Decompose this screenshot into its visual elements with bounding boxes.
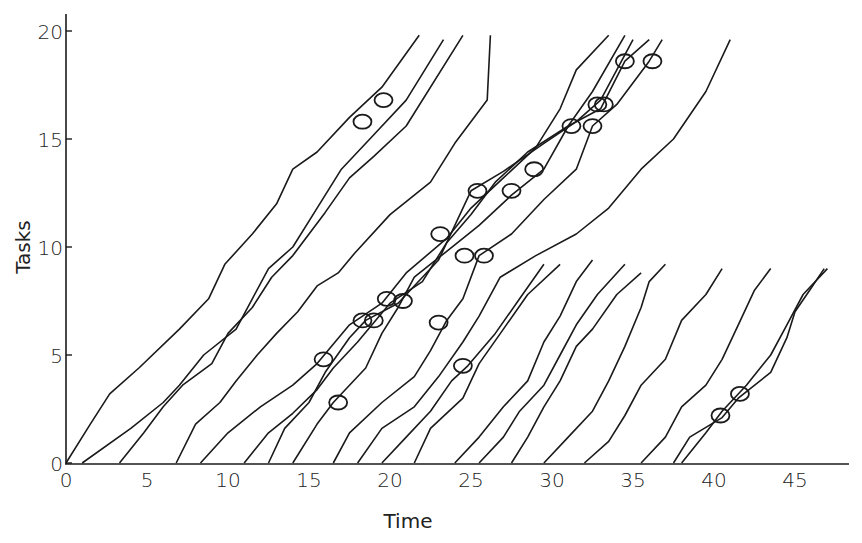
circle-marker bbox=[315, 352, 333, 366]
circle-marker bbox=[731, 387, 749, 401]
trace-1 bbox=[66, 35, 419, 463]
trace-lines bbox=[66, 35, 827, 463]
x-tick-label: 15 bbox=[296, 468, 321, 492]
y-tick-label: 10 bbox=[38, 236, 63, 260]
axes: 05101520 051015202530354045 Tasks Time bbox=[11, 14, 849, 533]
trace-15 bbox=[512, 273, 642, 463]
circle-marker bbox=[475, 249, 493, 263]
circle-marker bbox=[456, 249, 474, 263]
circle-marker bbox=[375, 93, 393, 107]
y-axis-title: Tasks bbox=[11, 220, 35, 275]
trace-17 bbox=[584, 269, 722, 463]
x-tick-label: 40 bbox=[701, 468, 726, 492]
x-tick-label: 25 bbox=[458, 468, 483, 492]
circle-marker bbox=[394, 294, 412, 308]
x-tick-label: 0 bbox=[60, 468, 73, 492]
x-axis-title: Time bbox=[383, 509, 433, 533]
x-tick-label: 20 bbox=[377, 468, 402, 492]
trace-16 bbox=[544, 264, 666, 463]
chart: 05101520 051015202530354045 Tasks Time bbox=[0, 0, 862, 543]
x-tick-label: 35 bbox=[620, 468, 645, 492]
y-tick-label: 15 bbox=[38, 128, 63, 152]
trace-7 bbox=[269, 40, 634, 463]
trace-2 bbox=[82, 40, 443, 463]
circle-marker bbox=[525, 162, 543, 176]
y-ticks: 05101520 bbox=[38, 20, 72, 476]
y-tick-label: 5 bbox=[50, 344, 63, 368]
x-tick-label: 10 bbox=[215, 468, 240, 492]
circle-marker bbox=[378, 292, 396, 306]
x-ticks: 051015202530354045 bbox=[60, 468, 808, 492]
circle-marker bbox=[431, 227, 449, 241]
trace-12 bbox=[414, 264, 560, 463]
x-tick-label: 45 bbox=[782, 468, 807, 492]
x-tick-label: 5 bbox=[141, 468, 154, 492]
circle-marker bbox=[711, 408, 729, 422]
trace-10 bbox=[358, 40, 731, 463]
x-tick-label: 30 bbox=[539, 468, 564, 492]
y-tick-label: 20 bbox=[38, 20, 63, 44]
circle-marker bbox=[353, 115, 371, 129]
trace-14 bbox=[479, 264, 625, 463]
circle-markers bbox=[315, 54, 749, 422]
